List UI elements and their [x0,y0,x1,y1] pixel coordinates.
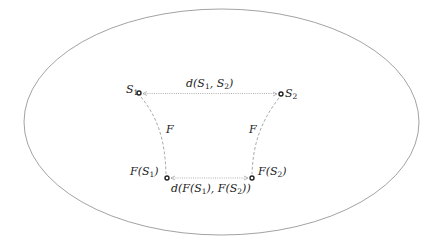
mapping-curve-right [252,98,279,174]
label-FS2: F(S2) [257,165,287,179]
label-distance-bottom: d(F(S1), F(S2)) [171,182,251,196]
point-S2 [279,92,283,96]
metric-space-ellipse [24,9,419,235]
label-F-left: F [165,123,174,136]
diagram-canvas: S1 S2 d(S1, S2) F F F(S1) F(S2) d(F(S1),… [0,0,442,243]
label-S2: S2 [285,87,298,101]
label-FS1: F(S1) [129,165,159,179]
arrowhead-icon [143,92,147,96]
label-S1: S1 [126,83,138,97]
point-FS1 [165,176,169,180]
label-distance-top: d(S1, S2) [186,77,233,91]
point-FS2 [250,176,254,180]
mapping-curve-left [141,97,166,174]
label-F-right: F [248,123,257,136]
arrowhead-icon [171,176,175,180]
